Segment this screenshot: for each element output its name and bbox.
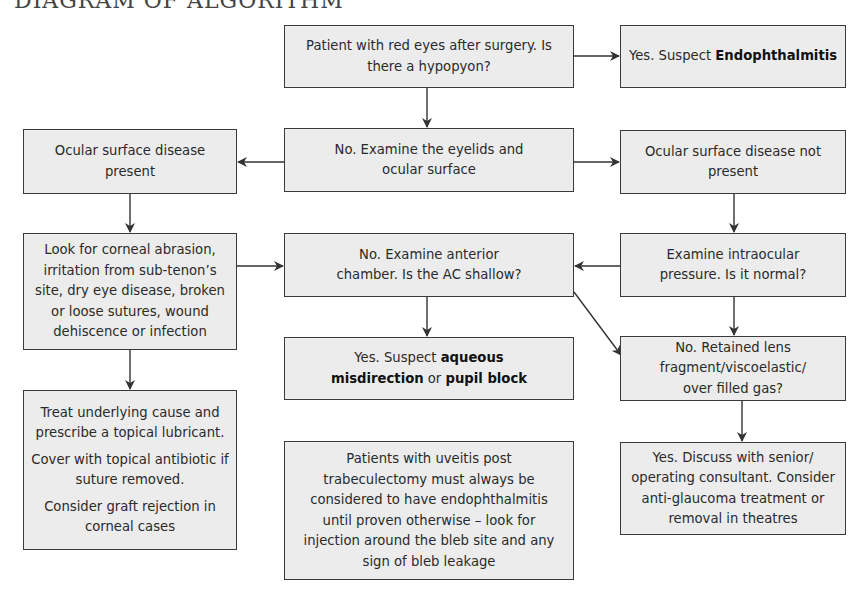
node-aqueous-prefix: Yes. Suspect (354, 350, 440, 365)
node-examine-ac: No. Examine anterior chamber. Is the AC … (284, 233, 574, 297)
node-discuss-text: Yes. Discuss with senior/ operating cons… (629, 448, 837, 530)
node-endophthalmitis-prefix: Yes. Suspect (629, 48, 715, 63)
node-look-for: Look for corneal abrasion, irritation fr… (23, 233, 237, 350)
node-retained-lens-text: No. Retained lens fragment/viscoelastic/… (649, 338, 817, 400)
node-aqueous-middle: or (424, 371, 446, 386)
node-look-for-text: Look for corneal abrasion, irritation fr… (28, 240, 232, 343)
node-examine-eyelids: No. Examine the eyelids and ocular surfa… (284, 128, 574, 192)
node-uveitis-note-text: Patients with uveitis post trabeculectom… (295, 449, 563, 572)
node-osd-present-text: Ocular surface disease present (46, 141, 214, 182)
node-treat-p2: Cover with topical antibiotic if suture … (28, 450, 232, 491)
node-osd-not-present: Ocular surface disease not present (620, 130, 846, 194)
node-osd-not-present-text: Ocular surface disease not present (633, 142, 833, 183)
node-treat-p1: Treat underlying cause and prescribe a t… (28, 403, 232, 444)
node-examine-iop: Examine intraocular pressure. Is it norm… (620, 233, 846, 297)
node-endophthalmitis-bold: Endophthalmitis (715, 48, 837, 63)
node-examine-eyelids-text: No. Examine the eyelids and ocular surfa… (325, 140, 533, 181)
node-endophthalmitis: Yes. Suspect Endophthalmitis (620, 25, 846, 88)
node-uveitis-note: Patients with uveitis post trabeculectom… (284, 441, 574, 580)
node-retained-lens: No. Retained lens fragment/viscoelastic/… (620, 336, 846, 401)
node-start: Patient with red eyes after surgery. Is … (284, 25, 574, 88)
node-treat: Treat underlying cause and prescribe a t… (23, 390, 237, 550)
node-treat-p3: Consider graft rejection in corneal case… (28, 497, 232, 538)
node-aqueous-bold2: pupil block (445, 371, 527, 386)
node-start-text: Patient with red eyes after surgery. Is … (291, 36, 567, 77)
node-discuss: Yes. Discuss with senior/ operating cons… (620, 442, 846, 535)
node-examine-iop-text: Examine intraocular pressure. Is it norm… (651, 245, 815, 286)
node-examine-ac-text: No. Examine anterior chamber. Is the AC … (335, 245, 523, 286)
node-aqueous: Yes. Suspect aqueous misdirection or pup… (284, 337, 574, 400)
node-osd-present: Ocular surface disease present (23, 129, 237, 194)
